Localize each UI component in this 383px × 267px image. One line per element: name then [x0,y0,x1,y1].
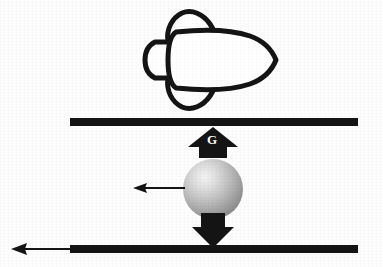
diagram-canvas [0,0,383,267]
sphere [183,159,243,219]
bottom-bar [70,245,358,253]
rocket-body [168,30,276,89]
top-bar [70,118,358,126]
